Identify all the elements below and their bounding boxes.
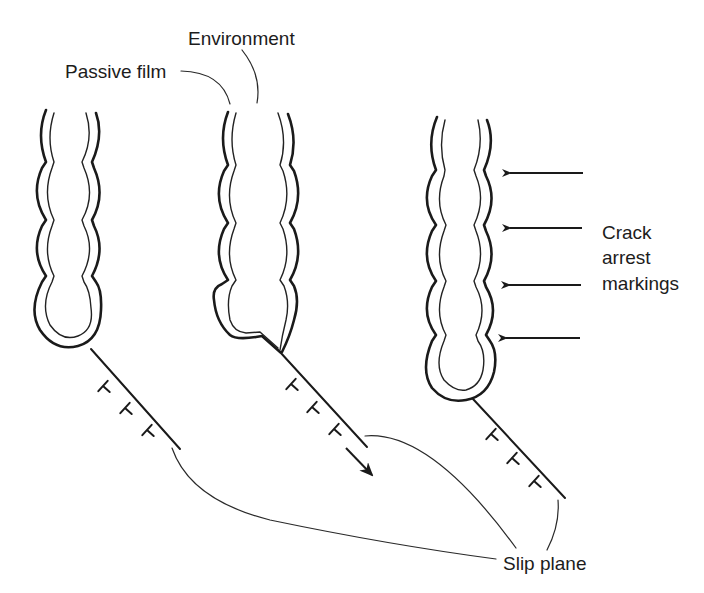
- crack-arrest-label-line-1: Crack: [602, 222, 652, 243]
- environment-leader: [242, 50, 258, 103]
- environment-label: Environment: [188, 28, 295, 49]
- slip-plane-2: [280, 352, 367, 447]
- crack-stage-1: [34, 110, 180, 449]
- slip-direction-arrow-icon: [346, 448, 372, 475]
- passive-film-label: Passive film: [65, 61, 166, 82]
- crack-stage-2: [214, 112, 372, 475]
- slip-plane-1: [91, 349, 180, 449]
- dislocation-icon: [307, 402, 323, 418]
- passive-film-leader: [181, 71, 230, 104]
- dislocation-icon: [329, 424, 345, 440]
- dislocation-icon: [486, 429, 502, 445]
- slip-plane-leader-2: [365, 436, 516, 548]
- crack-propagation-diagram: Environment Passive film Crack arrest ma…: [0, 0, 704, 593]
- crack-3-outer-boundary: [426, 117, 495, 401]
- dislocation-icon: [142, 425, 158, 441]
- crack-arrest-label-line-3: markings: [602, 273, 679, 294]
- crack-3-inner-boundary: [439, 120, 484, 390]
- slip-plane-3: [473, 399, 565, 498]
- slip-plane-leader-1: [172, 448, 496, 559]
- dislocation-group-2: [286, 379, 345, 440]
- dislocation-icon: [120, 403, 136, 419]
- crack-arrest-arrows: [506, 173, 583, 338]
- crack-2-inner-boundary-right: [278, 113, 288, 350]
- crack-stage-3: [426, 117, 583, 498]
- slip-plane-leader-3: [547, 500, 558, 550]
- dislocation-icon: [286, 379, 302, 395]
- crack-1-inner-boundary: [45, 113, 91, 338]
- crack-2-inner-boundary: [228, 113, 278, 348]
- slip-plane-label: Slip plane: [503, 553, 586, 574]
- dislocation-icon: [98, 381, 114, 397]
- crack-arrest-label-line-2: arrest: [602, 247, 651, 268]
- crack-2-outer-boundary: [214, 112, 280, 352]
- dislocation-group-3: [486, 429, 545, 492]
- dislocation-icon: [507, 453, 523, 469]
- dislocation-icon: [529, 476, 545, 492]
